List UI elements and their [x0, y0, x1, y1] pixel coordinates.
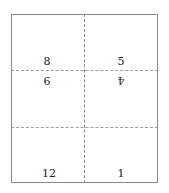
page-number-12: 12 — [34, 168, 64, 180]
page-number-5: 5 — [106, 56, 136, 68]
page-number-9-rotated: 9 — [32, 74, 62, 86]
page-number-4-rotated: 4 — [106, 74, 136, 86]
horizontal-fold-line-upper — [11, 70, 158, 71]
vertical-fold-line — [84, 14, 85, 183]
page-number-1: 1 — [106, 168, 136, 180]
horizontal-fold-line-lower — [11, 127, 158, 128]
page-number-8: 8 — [32, 56, 62, 68]
